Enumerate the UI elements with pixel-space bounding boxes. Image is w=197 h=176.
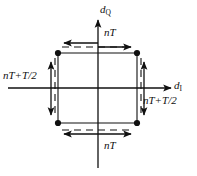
horizontal-axis-label-sub: I [180,84,183,93]
vertical-axis-label: dQ [100,4,111,15]
vertical-axis-label-main: d [100,3,106,15]
horizontal-axis-label: dI [174,80,182,91]
marker-bottom-left [55,120,61,126]
vertical-axis-label-sub: Q [106,8,111,17]
horizontal-axis-label-main: d [174,79,180,91]
annotation-left: nT+T/2 [3,70,37,81]
figure-canvas [0,0,197,176]
timing-offset-figure: dQ dI nT nT nT+T/2 nT+T/2 [0,0,197,176]
marker-bottom-right [134,120,140,126]
marker-top-right [134,50,140,56]
annotation-top: nT [104,27,116,38]
annotation-bottom: nT [104,140,116,151]
marker-top-left [55,50,61,56]
annotation-right: nT+T/2 [143,95,177,106]
